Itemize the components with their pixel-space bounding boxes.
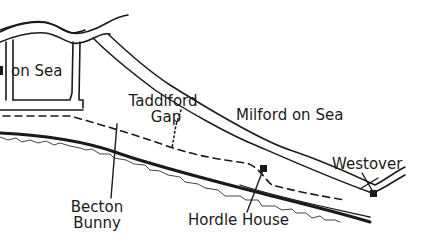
label-on-sea: on Sea xyxy=(11,63,62,79)
label-westover: Westover xyxy=(332,156,402,172)
label-hordle-house: Hordle House xyxy=(188,212,289,228)
left-edge-mark xyxy=(0,66,3,75)
label-taddiford-gap: Taddiford Gap xyxy=(117,93,209,125)
label-gap: Gap xyxy=(117,109,209,125)
label-becton: Becton xyxy=(66,199,128,215)
westover-marker xyxy=(370,190,377,197)
label-bunny: Bunny xyxy=(66,215,128,231)
coastline xyxy=(0,133,370,222)
label-taddiford: Taddiford xyxy=(117,93,209,109)
hordle-house-marker xyxy=(260,165,267,172)
road-top-outer xyxy=(0,22,85,33)
block-right-vert xyxy=(79,42,83,108)
becton-pointer xyxy=(111,124,117,198)
road-top-outer-2 xyxy=(0,15,128,33)
footpath-dashed xyxy=(3,116,345,200)
label-milford-on-sea: Milford on Sea xyxy=(236,107,343,123)
label-becton-bunny: Becton Bunny xyxy=(66,199,128,231)
coastal-map: on Sea Taddiford Gap Milford on Sea West… xyxy=(0,0,435,251)
